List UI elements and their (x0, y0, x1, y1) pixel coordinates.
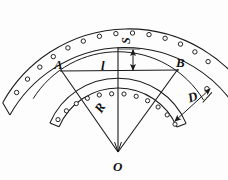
outer-hole (25, 77, 29, 81)
outer-hole (206, 59, 210, 63)
inner-hole (74, 102, 78, 106)
chord-line-group (60, 70, 179, 71)
inner-hole (165, 113, 169, 117)
inner-hole (64, 109, 68, 113)
outer-hole (97, 34, 101, 38)
inner-hole (134, 94, 138, 98)
inner-hole (110, 92, 114, 96)
outer-band-left-cap (3, 103, 10, 115)
radius-lines (61, 47, 178, 152)
outer-hole (163, 36, 167, 40)
radius-line-left (61, 70, 118, 152)
inner-hole (85, 96, 89, 100)
label-center-o: O (113, 160, 122, 173)
outer-hole (38, 65, 42, 69)
inner-band-left-cap (50, 123, 59, 127)
outer-hole (130, 31, 134, 35)
label-point-b: B (176, 56, 185, 69)
inner-band-holes (56, 92, 177, 127)
outer-hole (66, 46, 70, 50)
inner-hole (56, 118, 60, 122)
inner-hole (156, 105, 160, 109)
label-chord: l (101, 59, 105, 72)
outer-hole (193, 50, 197, 54)
inner-hole (97, 93, 101, 97)
label-sagitta: S (120, 37, 132, 44)
outer-hole (14, 90, 18, 94)
radius-line-right (118, 69, 178, 152)
chord-line (60, 70, 179, 71)
inner-hole (173, 122, 177, 126)
label-point-a: A (54, 58, 63, 71)
inner-hole (122, 92, 126, 96)
technical-diagram: A B l S D R O (0, 0, 228, 180)
outer-hole (114, 31, 118, 35)
outer-hole (178, 42, 182, 46)
inner-band-right-cap (177, 123, 186, 127)
outer-hole (147, 32, 151, 36)
outer-hole (81, 39, 85, 43)
inner-hole (146, 99, 150, 103)
